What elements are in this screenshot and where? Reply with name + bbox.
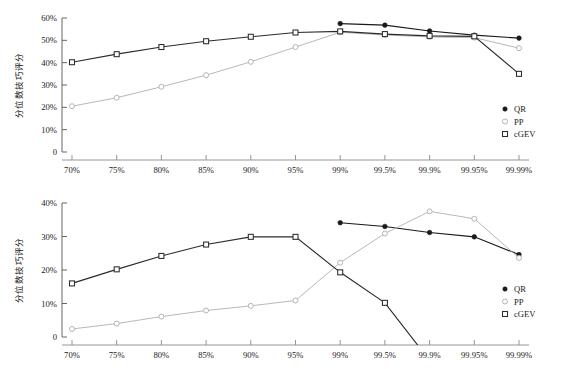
data-point-marker (293, 234, 298, 239)
series-pp (70, 209, 522, 332)
data-point-marker (70, 104, 75, 109)
legend-label-cgev: cGEV (514, 129, 536, 139)
y-axis-tick-label: 50% (41, 35, 57, 45)
data-point-marker (114, 267, 119, 272)
y-axis-tick-label: 40% (41, 58, 57, 68)
chart-panel-bottom: 分位数技巧评分 010%20%30%40%70%75%80%85%90%95%9… (0, 185, 569, 369)
series-line (340, 223, 519, 255)
data-point-marker (70, 281, 75, 286)
y-axis-tick-label: 0 (53, 332, 57, 342)
x-axis-tick-label: 85% (198, 350, 214, 360)
data-point-marker (248, 303, 253, 308)
data-point-marker (427, 209, 432, 214)
data-point-marker (204, 308, 209, 313)
x-axis-tick-label: 70% (64, 165, 80, 175)
data-point-marker (338, 260, 343, 265)
legend-marker-cgev (503, 312, 508, 317)
x-axis-tick-label: 99.99% (506, 165, 533, 175)
x-axis-tick-label: 99% (332, 350, 348, 360)
legend-marker-pp (503, 299, 508, 304)
legend-label-cgev: cGEV (514, 309, 536, 319)
data-point-marker (248, 234, 253, 239)
data-point-marker (159, 253, 164, 258)
plot-area-top: 010%20%30%40%50%60%70%75%80%85%90%95%99%… (0, 0, 569, 184)
data-point-marker (472, 235, 477, 240)
data-point-marker (427, 29, 432, 34)
series-qr (338, 220, 521, 256)
x-axis-tick-label: 99.95% (461, 165, 488, 175)
data-point-marker (338, 29, 343, 34)
data-point-marker (159, 84, 164, 89)
legend-label-pp: PP (514, 297, 524, 307)
x-axis-tick-label: 95% (288, 165, 304, 175)
y-axis-tick-label: 20% (41, 102, 57, 112)
y-axis-tick-label: 20% (41, 265, 57, 275)
plot-area-bottom: 010%20%30%40%70%75%80%85%90%95%99%99.5%9… (0, 185, 569, 369)
data-point-marker (70, 326, 75, 331)
figure-container: 分位数技巧评分 010%20%30%40%50%60%70%75%80%85%9… (0, 0, 569, 369)
x-axis-tick-label: 90% (243, 165, 259, 175)
series-pp (70, 30, 522, 109)
data-point-marker (204, 39, 209, 44)
y-axis-tick-label: 40% (41, 198, 57, 208)
x-axis-tick-label: 99.99% (506, 350, 533, 360)
data-point-marker (383, 224, 388, 229)
x-axis-tick-label: 99.5% (374, 350, 396, 360)
data-point-marker (248, 34, 253, 39)
x-axis-tick-label: 99.95% (461, 350, 488, 360)
data-point-marker (382, 32, 387, 37)
data-point-marker (383, 23, 388, 28)
x-axis-tick-label: 99.9% (418, 350, 440, 360)
x-axis-tick-label: 80% (154, 350, 170, 360)
legend-label-qr: QR (514, 284, 526, 294)
data-point-marker (114, 321, 119, 326)
legend-label-qr: QR (514, 104, 526, 114)
data-point-marker (204, 242, 209, 247)
data-point-marker (427, 230, 432, 235)
x-axis-tick-label: 70% (64, 350, 80, 360)
x-axis-tick-label: 80% (154, 165, 170, 175)
data-point-marker (338, 21, 343, 26)
data-point-marker (517, 36, 522, 41)
data-point-marker (517, 255, 522, 260)
y-axis-tick-label: 30% (41, 232, 57, 242)
legend-marker-cgev (503, 132, 508, 137)
data-point-marker (293, 298, 298, 303)
data-point-marker (517, 71, 522, 76)
data-point-marker (204, 73, 209, 78)
series-line (72, 32, 519, 106)
legend-marker-qr (503, 287, 507, 291)
data-point-marker (472, 34, 477, 39)
y-axis-tick-label: 30% (41, 80, 57, 90)
legend-marker-qr (503, 107, 507, 111)
y-axis-tick-label: 10% (41, 299, 57, 309)
series-line (72, 211, 519, 329)
data-point-marker (338, 220, 343, 225)
data-point-marker (293, 45, 298, 50)
series-cgev (70, 29, 522, 76)
x-axis-tick-label: 75% (109, 165, 125, 175)
x-axis-tick-label: 90% (243, 350, 259, 360)
data-point-marker (382, 300, 387, 305)
data-point-marker (159, 314, 164, 319)
x-axis-tick-label: 99.5% (374, 165, 396, 175)
data-point-marker (159, 45, 164, 50)
y-axis-tick-label: 0 (53, 147, 57, 157)
x-axis-tick-label: 75% (109, 350, 125, 360)
data-point-marker (293, 30, 298, 35)
data-point-marker (338, 270, 343, 275)
data-point-marker (70, 60, 75, 65)
y-axis-tick-label: 60% (41, 13, 57, 23)
y-axis-tick-label: 10% (41, 125, 57, 135)
x-axis-tick-label: 95% (288, 350, 304, 360)
x-axis-tick-label: 85% (198, 165, 214, 175)
data-point-marker (472, 216, 477, 221)
data-point-marker (248, 59, 253, 64)
x-axis-tick-label: 99% (332, 165, 348, 175)
legend-label-pp: PP (514, 117, 524, 127)
data-point-marker (382, 231, 387, 236)
chart-panel-top: 分位数技巧评分 010%20%30%40%50%60%70%75%80%85%9… (0, 0, 569, 184)
data-point-marker (114, 52, 119, 57)
legend-marker-pp (503, 119, 508, 124)
data-point-marker (114, 95, 119, 100)
